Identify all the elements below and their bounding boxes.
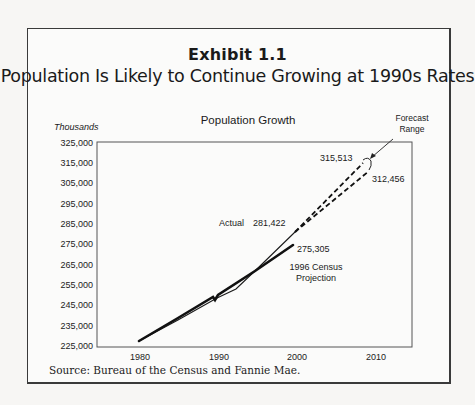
actual-line bbox=[139, 232, 295, 341]
projection-name-line2: Projection bbox=[296, 273, 336, 283]
x-tick: 1990 bbox=[209, 352, 229, 362]
projection-value-label: 275,305 bbox=[297, 244, 330, 254]
y-tick: 275,000 bbox=[60, 239, 93, 249]
forecast-range-label-line2: Range bbox=[399, 124, 424, 134]
actual-value-label: 281,422 bbox=[253, 218, 286, 228]
x-tick: 2000 bbox=[287, 352, 307, 362]
y-tick: 305,000 bbox=[60, 178, 93, 188]
forecast-low-line bbox=[295, 171, 369, 232]
y-tick: 325,000 bbox=[60, 138, 93, 148]
y-axis-ticks: 325,000 315,000 305,000 295,000 285,000 … bbox=[60, 138, 93, 351]
chart-title: Population Growth bbox=[201, 114, 296, 126]
forecast-range-bracket bbox=[363, 158, 371, 170]
forecast-range-label-line1: Forecast bbox=[395, 113, 429, 123]
census-projection-line bbox=[139, 245, 293, 341]
y-tick: 285,000 bbox=[60, 219, 93, 229]
source-note: Source: Bureau of the Census and Fannie … bbox=[49, 364, 300, 376]
y-axis-unit: Thousands bbox=[54, 122, 99, 132]
forecast-high-label: 315,513 bbox=[320, 153, 353, 163]
actual-label: Actual bbox=[219, 218, 244, 228]
y-tick: 295,000 bbox=[60, 199, 93, 209]
x-axis-ticks: 1980 1990 2000 2010 bbox=[130, 352, 386, 362]
forecast-low-label: 312,456 bbox=[372, 174, 405, 184]
plot-area bbox=[97, 142, 412, 347]
y-tick: 245,000 bbox=[60, 300, 93, 310]
population-chart: Population Growth Thousands 325,000 315,… bbox=[0, 0, 475, 405]
annotations: Actual 281,422 275,305 1996 Census Proje… bbox=[219, 113, 429, 283]
projection-name-line1: 1996 Census bbox=[289, 262, 343, 272]
x-tick: 2010 bbox=[366, 352, 386, 362]
y-tick: 315,000 bbox=[60, 158, 93, 168]
forecast-high-line bbox=[295, 163, 363, 232]
y-tick: 235,000 bbox=[60, 321, 93, 331]
x-tick: 1980 bbox=[130, 352, 150, 362]
y-tick: 265,000 bbox=[60, 260, 93, 270]
y-tick: 225,000 bbox=[60, 341, 93, 351]
y-tick: 255,000 bbox=[60, 280, 93, 290]
